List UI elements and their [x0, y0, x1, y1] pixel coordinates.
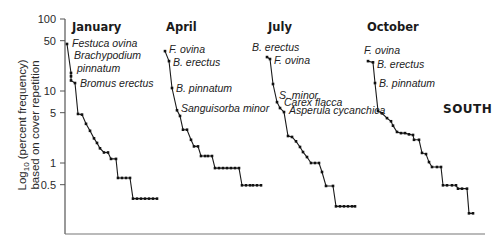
- data-point: [110, 158, 113, 161]
- data-point: [241, 184, 244, 187]
- data-point: [179, 115, 182, 118]
- panel-title-january: January: [71, 20, 122, 34]
- species-label: Sanguisorba minor: [181, 102, 270, 114]
- data-point: [85, 123, 88, 126]
- species-frequency-chart: Log10 (percent frequency) based on cover…: [0, 0, 496, 249]
- data-point: [230, 167, 233, 170]
- data-point: [245, 184, 248, 187]
- data-point: [249, 184, 252, 187]
- data-point: [283, 111, 286, 114]
- data-point: [351, 205, 354, 208]
- data-point: [103, 151, 106, 154]
- data-point: [276, 101, 279, 104]
- data-point: [374, 82, 377, 85]
- data-point: [140, 197, 143, 200]
- y-tick-label: 100: [38, 13, 56, 25]
- data-point: [472, 212, 475, 215]
- data-point: [431, 166, 434, 169]
- data-point: [256, 184, 259, 187]
- series-july: [266, 56, 357, 208]
- data-point: [272, 83, 275, 86]
- species-label: Festuca ovina: [72, 37, 138, 49]
- data-point: [77, 113, 80, 116]
- data-point: [115, 158, 118, 161]
- data-point: [400, 132, 403, 135]
- species-label: F. ovina: [274, 54, 310, 66]
- data-point: [386, 117, 389, 120]
- species-annotations: Festuca ovinaBrachypodiumpinnatumBromus …: [72, 37, 435, 116]
- data-point: [214, 167, 217, 170]
- panel-title-july: July: [267, 20, 292, 34]
- data-point: [148, 197, 151, 200]
- species-label: Bromus erectus: [80, 77, 154, 89]
- series-line: [165, 51, 261, 185]
- species-label: F. ovina: [364, 44, 400, 56]
- data-point: [332, 185, 335, 188]
- data-point: [93, 137, 96, 140]
- data-point: [442, 184, 445, 187]
- y-axis-title-rest: (percent frequency): [16, 59, 28, 162]
- species-label: B. erectus: [252, 41, 300, 53]
- data-point: [446, 184, 449, 187]
- data-point: [318, 162, 321, 165]
- data-point: [186, 128, 189, 131]
- data-point: [197, 145, 200, 148]
- data-point: [440, 166, 443, 169]
- data-point: [306, 156, 309, 159]
- panel-title-october: October: [367, 20, 419, 34]
- data-point: [455, 184, 458, 187]
- data-point: [99, 147, 102, 150]
- data-point: [295, 140, 298, 143]
- data-point: [226, 167, 229, 170]
- data-point: [299, 146, 302, 149]
- data-point: [74, 82, 77, 85]
- data-point: [392, 124, 395, 127]
- data-point: [339, 205, 342, 208]
- data-point: [132, 197, 135, 200]
- data-point: [451, 184, 454, 187]
- data-point: [421, 152, 424, 155]
- species-label: B. pinnatum: [176, 82, 232, 94]
- data-point: [70, 79, 73, 82]
- data-point: [413, 139, 416, 142]
- data-point: [408, 133, 411, 136]
- data-point: [372, 61, 375, 64]
- data-point: [190, 139, 193, 142]
- data-point: [291, 136, 294, 139]
- data-point: [152, 197, 155, 200]
- data-point: [310, 162, 313, 165]
- data-point: [457, 187, 460, 190]
- data-point: [252, 184, 255, 187]
- data-point: [269, 58, 272, 61]
- series-line: [267, 57, 355, 206]
- y-axis-title-line2: based on cover repetition: [29, 60, 41, 189]
- data-point: [81, 113, 84, 116]
- data-point: [390, 120, 393, 123]
- data-point: [66, 43, 69, 46]
- data-point: [89, 130, 92, 133]
- y-tick-label: 10: [44, 85, 56, 97]
- data-point: [182, 128, 185, 131]
- data-point: [396, 131, 399, 134]
- data-point: [461, 187, 464, 190]
- data-point: [354, 205, 357, 208]
- y-ticks: 1005010510.5: [38, 13, 65, 191]
- data-point: [428, 161, 431, 164]
- data-point: [347, 205, 350, 208]
- data-point: [70, 75, 73, 78]
- data-point: [222, 167, 225, 170]
- y-tick-label: 0.5: [41, 179, 56, 191]
- data-point: [425, 153, 428, 156]
- data-point: [266, 56, 269, 59]
- data-point: [121, 177, 124, 180]
- data-point: [260, 184, 263, 187]
- data-point: [96, 142, 99, 145]
- data-point: [404, 132, 407, 135]
- data-point: [367, 60, 370, 63]
- data-point: [314, 162, 317, 165]
- data-point: [343, 205, 346, 208]
- y-axis-title: Log10 (percent frequency) based on cover…: [16, 59, 41, 190]
- data-point: [436, 166, 439, 169]
- species-label: B. erectus: [377, 58, 425, 70]
- species-label: Asperula cycanchica: [288, 104, 385, 116]
